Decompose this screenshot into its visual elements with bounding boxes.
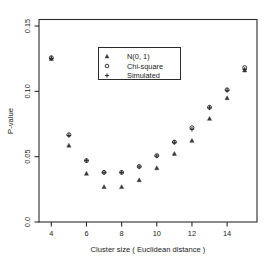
scatter-plot-svg: 468101214 0.00.050.100.15 P-value Cluste… xyxy=(0,0,273,271)
x-tick-label: 14 xyxy=(223,229,231,238)
x-tick-label: 10 xyxy=(153,229,161,238)
x-tick-label: 12 xyxy=(188,229,196,238)
data-point-triangle-icon xyxy=(84,171,88,175)
legend-label: Chi-square xyxy=(127,62,163,71)
y-tick-label: 0.15 xyxy=(23,19,32,33)
data-point-triangle-icon xyxy=(190,138,194,142)
x-axis-title: Cluster size ( Euclidean distance ) xyxy=(91,245,206,254)
legend-label: Simulated xyxy=(127,71,160,80)
y-tick-label: 0.0 xyxy=(23,217,32,227)
data-point-triangle-icon xyxy=(119,185,123,189)
data-point-triangle-icon xyxy=(102,185,106,189)
chart-figure: 468101214 0.00.050.100.15 P-value Cluste… xyxy=(0,0,273,271)
data-point-triangle-icon xyxy=(67,143,71,147)
y-tick-label: 0.10 xyxy=(23,84,32,98)
x-axis: 468101214 xyxy=(49,222,231,238)
data-point-triangle-icon xyxy=(137,178,141,182)
x-tick-label: 8 xyxy=(120,229,124,238)
legend-label: N(0, 1) xyxy=(127,52,150,61)
y-axis-title: P-value xyxy=(6,108,15,134)
y-tick-label: 0.05 xyxy=(23,149,32,163)
data-point-triangle-icon xyxy=(155,166,159,170)
data-point-triangle-icon xyxy=(225,96,229,100)
y-axis: 0.00.050.100.15 xyxy=(23,19,39,227)
data-point-triangle-icon xyxy=(172,151,176,155)
x-tick-label: 4 xyxy=(49,229,53,238)
chart-legend: N(0, 1)Chi-squareSimulated xyxy=(99,48,181,81)
data-point-triangle-icon xyxy=(207,116,211,120)
x-tick-label: 6 xyxy=(84,229,88,238)
